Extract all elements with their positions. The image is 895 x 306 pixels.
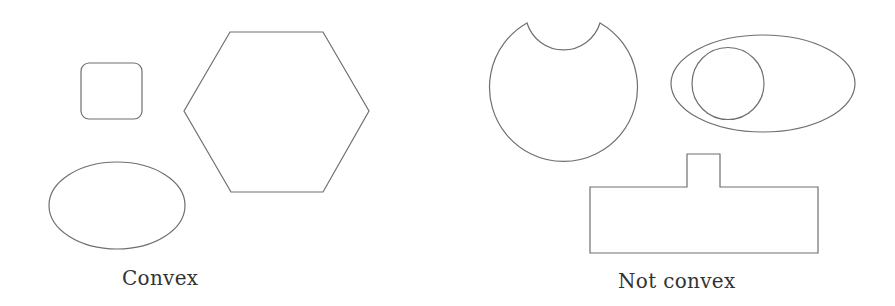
convex-group xyxy=(49,32,369,249)
inner-circle-shape xyxy=(692,48,764,120)
not-convex-group xyxy=(490,23,855,253)
outer-ellipse-shape xyxy=(671,35,855,132)
rectangle-with-tab-shape xyxy=(590,154,818,253)
convex-caption: Convex xyxy=(122,268,198,288)
hexagon-shape xyxy=(184,32,369,192)
rounded-square-shape xyxy=(81,63,142,119)
ellipse-shape xyxy=(49,162,185,249)
not-convex-caption: Not convex xyxy=(618,271,735,291)
convexity-diagram xyxy=(0,0,895,306)
circle-with-bite-shape xyxy=(490,23,638,161)
